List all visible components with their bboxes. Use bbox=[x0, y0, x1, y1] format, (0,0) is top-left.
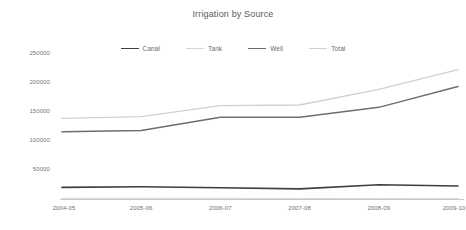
x-axis-tick-label: 2009-10 bbox=[424, 205, 466, 211]
y-axis-tick-label: 200000 bbox=[8, 79, 50, 85]
y-axis-tick-label: 50000 bbox=[8, 166, 50, 172]
chart-container: Irrigation by Source CanalTankWellTotal … bbox=[0, 0, 466, 230]
plot-area: 250000200000150000100000500002004-052005… bbox=[0, 0, 466, 230]
y-axis-tick-label: 250000 bbox=[8, 50, 50, 56]
chart-plot-svg bbox=[0, 0, 466, 230]
series-line-canal bbox=[62, 185, 458, 189]
x-axis-tick-label: 2007-08 bbox=[270, 205, 330, 211]
x-axis-tick-label: 2005-06 bbox=[111, 205, 171, 211]
y-axis-tick-label: 150000 bbox=[8, 108, 50, 114]
x-axis-tick-label: 2008-09 bbox=[349, 205, 409, 211]
series-line-well bbox=[62, 86, 458, 131]
y-axis-tick-label: 100000 bbox=[8, 137, 50, 143]
series-line-total bbox=[62, 70, 458, 119]
x-axis-tick-label: 2004-05 bbox=[34, 205, 94, 211]
x-axis-tick-label: 2006-07 bbox=[190, 205, 250, 211]
